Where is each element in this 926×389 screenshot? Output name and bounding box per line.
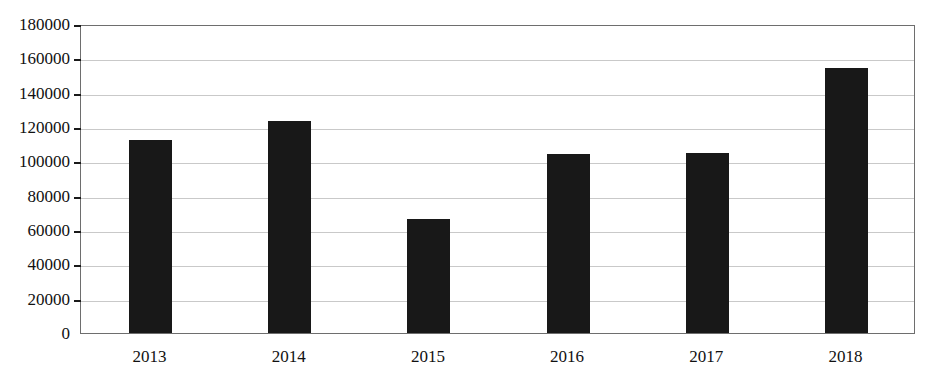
y-axis-tick: [74, 59, 81, 61]
bar-2013: [129, 140, 172, 333]
gridline: [81, 163, 914, 164]
x-axis-label-2013: 2013: [80, 348, 219, 365]
y-axis-tick: [74, 128, 81, 130]
gridline: [81, 129, 914, 130]
plot-area: [80, 25, 915, 334]
y-axis-tick-label: 60000: [0, 222, 70, 239]
x-axis-label-2016: 2016: [498, 348, 637, 365]
bar-2015: [407, 219, 450, 333]
gridline: [81, 60, 914, 61]
x-axis-label-2017: 2017: [637, 348, 776, 365]
y-axis-tick-label: 80000: [0, 188, 70, 205]
x-axis-label-2014: 2014: [219, 348, 358, 365]
bar-2017: [686, 153, 729, 333]
bar-2018: [825, 68, 868, 333]
y-axis-tick-label: 140000: [0, 85, 70, 102]
y-axis-tick: [74, 162, 81, 164]
y-axis-tick: [74, 25, 81, 27]
bar-2016: [547, 154, 590, 333]
y-axis-tick-label: 160000: [0, 50, 70, 67]
gridline: [81, 266, 914, 267]
gridline: [81, 232, 914, 233]
gridline: [81, 198, 914, 199]
y-axis-tick: [74, 300, 81, 302]
bar-2014: [268, 121, 311, 333]
y-axis-tick-label: 0: [0, 325, 70, 342]
y-axis-tick-label: 40000: [0, 256, 70, 273]
x-axis-label-2015: 2015: [358, 348, 497, 365]
gridline: [81, 95, 914, 96]
x-axis-label-2018: 2018: [776, 348, 915, 365]
y-axis-tick: [74, 231, 81, 233]
bar-chart: 0200004000060000800001000001200001400001…: [0, 0, 926, 389]
y-axis-tick: [74, 94, 81, 96]
y-axis-tick: [74, 265, 81, 267]
y-axis-tick-label: 180000: [0, 16, 70, 33]
y-axis-tick-label: 100000: [0, 153, 70, 170]
caption-remnant: [150, 378, 670, 386]
gridline: [81, 301, 914, 302]
y-axis-tick-label: 20000: [0, 291, 70, 308]
y-axis-tick-label: 120000: [0, 119, 70, 136]
y-axis-tick: [74, 197, 81, 199]
